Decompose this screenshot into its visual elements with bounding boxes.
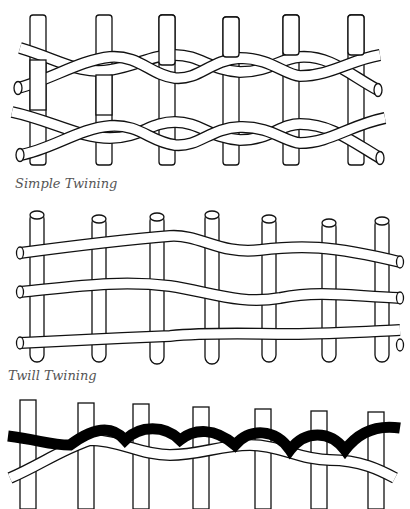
twining-diagram: Simple Twining Twill Twining xyxy=(0,0,410,509)
twill-twining-label: Twill Twining xyxy=(8,368,97,383)
weft-row-1 xyxy=(14,48,382,97)
weft-row-2 xyxy=(12,112,385,165)
twill-twining-figure xyxy=(17,211,404,364)
weaving-illustration xyxy=(0,0,410,509)
simple-twining-figure xyxy=(12,15,385,165)
simple-twining-label: Simple Twining xyxy=(15,176,117,191)
two-color-twining-figure xyxy=(8,400,400,509)
